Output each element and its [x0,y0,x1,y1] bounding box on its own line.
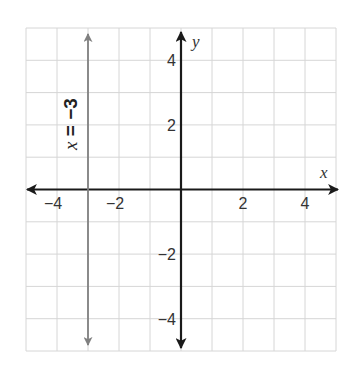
x-tick-label: 2 [239,195,248,212]
y-tick-label: 4 [167,52,176,69]
coordinate-plane: −4−22442−2−4 x y x = −3 [0,0,359,372]
axes [27,32,338,348]
equation-value: = −3 [60,98,81,141]
y-axis-label: y [190,32,200,51]
y-tick-label: 2 [167,117,176,134]
x-axis-label: x [319,163,328,182]
y-tick-label: −4 [158,311,176,328]
equation-label: x = −3 [60,98,81,151]
y-tick-label: −2 [158,246,176,263]
x-tick-label: −4 [44,195,62,212]
x-tick-label: 4 [301,195,310,212]
x-tick-label: −2 [106,195,124,212]
